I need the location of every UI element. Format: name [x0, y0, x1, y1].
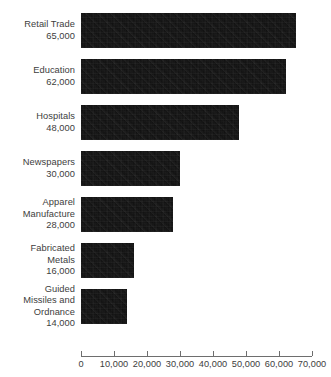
bar-category-label: Fabricated Metals 16,000	[0, 243, 75, 277]
bar-rect	[81, 197, 173, 232]
bar-rect	[81, 243, 134, 278]
bar-rect	[81, 59, 286, 94]
axis-tick	[81, 351, 82, 356]
bar-category-label: Guided Missiles and Ordnance 14,000	[0, 284, 75, 330]
axis-tick	[147, 351, 148, 356]
axis-tick	[312, 351, 313, 356]
bar-row: Education 62,000	[0, 54, 331, 100]
axis-tick	[246, 351, 247, 356]
axis-tick-label: 10,000	[100, 359, 128, 370]
bar-row: Retail Trade 65,000	[0, 8, 331, 54]
bar-chart: Retail Trade 65,000Education 62,000Hospi…	[0, 0, 331, 377]
bar-row: Newspapers 30,000	[0, 146, 331, 192]
bar-row: Hospitals 48,000	[0, 100, 331, 146]
bar-row: Fabricated Metals 16,000	[0, 238, 331, 284]
bar-category-label: Apparel Manufacture 28,000	[0, 197, 75, 231]
axis-tick	[114, 351, 115, 356]
axis-tick-label: 50,000	[232, 359, 260, 370]
axis-tick-label: 30,000	[166, 359, 194, 370]
axis-tick-label: 20,000	[133, 359, 161, 370]
axis-tick-label: 40,000	[199, 359, 227, 370]
bar-row: Apparel Manufacture 28,000	[0, 192, 331, 238]
bar-rect	[81, 289, 127, 324]
bar-category-label: Education 62,000	[0, 65, 75, 88]
bar-category-label: Newspapers 30,000	[0, 157, 75, 180]
axis-line	[81, 356, 312, 357]
axis-tick	[213, 351, 214, 356]
axis-tick-label: 70,000	[298, 359, 326, 370]
axis-tick	[180, 351, 181, 356]
bar-rect	[81, 151, 180, 186]
bar-row: Guided Missiles and Ordnance 14,000	[0, 284, 331, 330]
bar-rect	[81, 105, 239, 140]
bar-category-label: Hospitals 48,000	[0, 111, 75, 134]
axis-tick	[279, 351, 280, 356]
bar-rect	[81, 13, 296, 48]
axis-tick-label: 0	[78, 359, 83, 370]
x-axis: 010,00020,00030,00040,00050,00060,00070,…	[0, 350, 331, 377]
plot-area: Retail Trade 65,000Education 62,000Hospi…	[0, 0, 331, 350]
bar-category-label: Retail Trade 65,000	[0, 19, 75, 42]
axis-tick-label: 60,000	[265, 359, 293, 370]
